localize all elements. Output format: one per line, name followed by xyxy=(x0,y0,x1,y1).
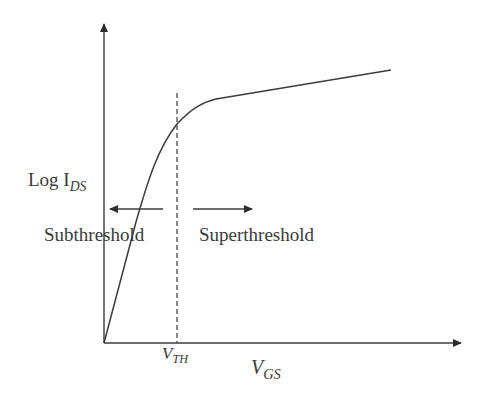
vth-label: VTH xyxy=(162,344,188,364)
x-axis-label: VGS xyxy=(251,356,281,379)
region-label-superthreshold: Superthreshold xyxy=(199,224,314,246)
y-axis-label-sub: DS xyxy=(70,179,87,194)
x-axis-label-sub: GS xyxy=(263,366,281,382)
vth-label-main: V xyxy=(162,344,172,363)
x-axis-label-main: V xyxy=(251,356,263,378)
region-label-subthreshold: Subthreshold xyxy=(44,224,144,246)
y-axis-label-main: Log I xyxy=(28,169,70,190)
y-axis-label: Log IDS xyxy=(28,169,86,191)
vth-label-sub: TH xyxy=(172,352,188,366)
id-vgs-curve xyxy=(104,70,391,343)
diagram-canvas xyxy=(0,0,485,398)
